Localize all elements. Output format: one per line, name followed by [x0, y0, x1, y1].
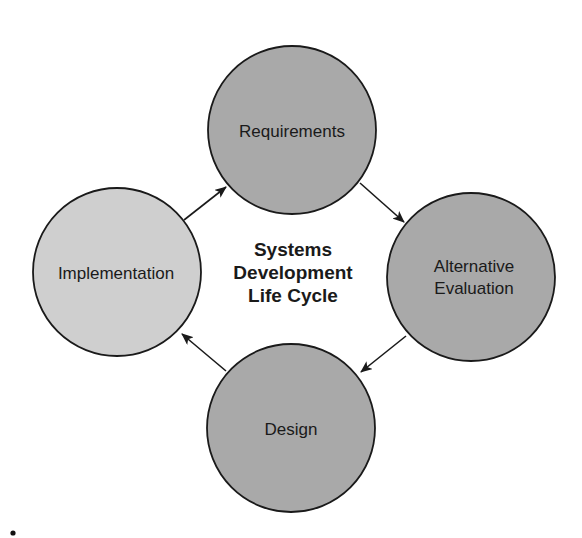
alternative-evaluation-circle	[387, 193, 555, 361]
center-title-line2: Development	[233, 262, 353, 283]
sdlc-diagram: Requirements Alternative Evaluation Desi…	[0, 0, 582, 538]
arrow-implementation-to-requirements	[184, 187, 226, 220]
center-title: Systems Development Life Cycle	[233, 239, 353, 306]
node-design: Design	[207, 344, 375, 512]
requirements-label: Requirements	[239, 122, 345, 141]
arrow-design-to-implementation	[182, 334, 226, 371]
bullet-dot	[10, 530, 15, 535]
center-title-line1: Systems	[254, 239, 332, 260]
node-requirements: Requirements	[208, 46, 376, 214]
implementation-label: Implementation	[58, 264, 174, 283]
arrow-requirements-to-alternative-evaluation	[360, 183, 404, 222]
center-title-line3: Life Cycle	[248, 285, 338, 306]
node-alternative-evaluation: Alternative Evaluation	[387, 193, 555, 361]
arrow-alternative-evaluation-to-design	[361, 336, 406, 372]
design-label: Design	[265, 420, 318, 439]
alternative-evaluation-label-line1: Alternative	[434, 257, 514, 276]
alternative-evaluation-label-line2: Evaluation	[434, 279, 513, 298]
node-implementation: Implementation	[33, 188, 201, 356]
